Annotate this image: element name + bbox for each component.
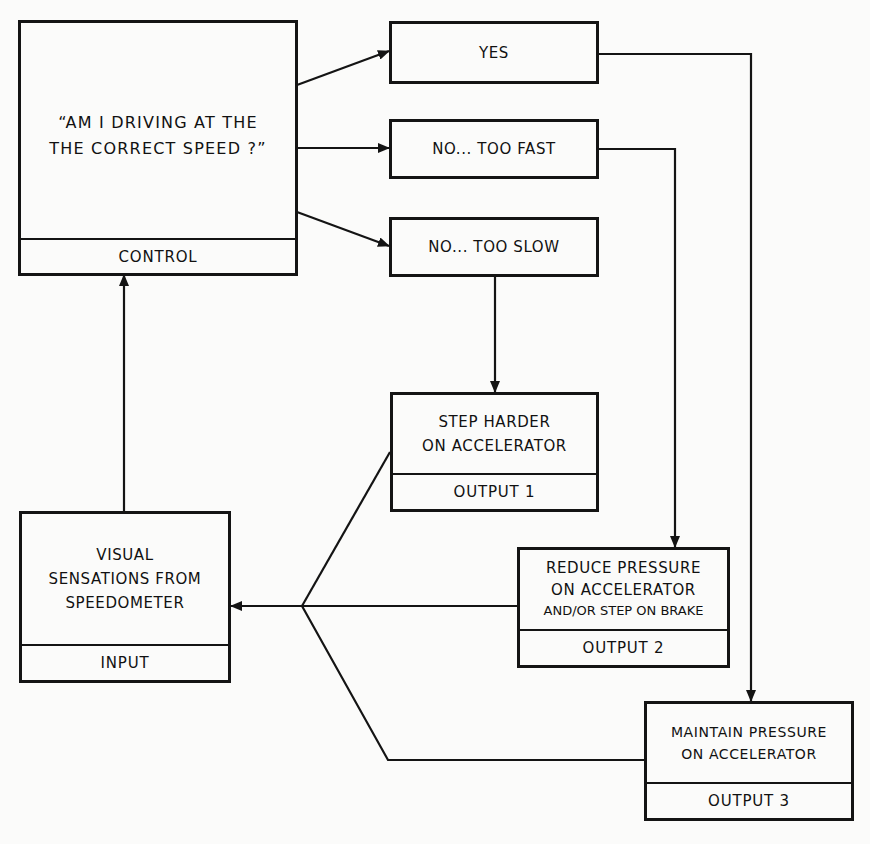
control-question-line-2: THE CORRECT SPEED ?”	[49, 136, 266, 162]
arrow-control-to-yes	[297, 51, 389, 85]
arrow-too-fast-to-output2	[598, 149, 675, 547]
yes-label: YES	[392, 24, 596, 81]
output3-box: MAINTAIN PRESSURE ON ACCELERATOR OUTPUT …	[644, 701, 854, 821]
output2-line-3: AND/OR STEP ON BRAKE	[544, 602, 704, 621]
output1-action: STEP HARDER ON ACCELERATOR	[393, 395, 596, 473]
output2-label: OUTPUT 2	[520, 629, 727, 665]
input-line-1: VISUAL	[49, 543, 202, 567]
output1-line-1: STEP HARDER	[422, 410, 567, 434]
too-fast-label: NO... TOO FAST	[392, 122, 596, 176]
output1-box: STEP HARDER ON ACCELERATOR OUTPUT 1	[390, 392, 599, 512]
line-output1-to-junction	[302, 452, 390, 606]
too-slow-label: NO... TOO SLOW	[392, 220, 596, 274]
arrow-control-to-too-slow	[297, 212, 389, 246]
control-label: CONTROL	[21, 238, 295, 273]
output3-action: MAINTAIN PRESSURE ON ACCELERATOR	[647, 704, 851, 782]
control-question: “AM I DRIVING AT THE THE CORRECT SPEED ?…	[21, 23, 295, 238]
output3-label: OUTPUT 3	[647, 782, 851, 818]
input-source: VISUAL SENSATIONS FROM SPEEDOMETER	[22, 514, 228, 644]
control-box: “AM I DRIVING AT THE THE CORRECT SPEED ?…	[18, 20, 298, 276]
input-box: VISUAL SENSATIONS FROM SPEEDOMETER INPUT	[19, 511, 231, 683]
output2-box: REDUCE PRESSURE ON ACCELERATOR AND/OR ST…	[517, 547, 730, 668]
yes-box: YES	[389, 21, 599, 84]
output1-line-2: ON ACCELERATOR	[422, 434, 567, 458]
output3-line-2: ON ACCELERATOR	[671, 743, 827, 765]
output2-action: REDUCE PRESSURE ON ACCELERATOR AND/OR ST…	[520, 550, 727, 629]
output2-line-2: ON ACCELERATOR	[544, 580, 704, 602]
output2-line-1: REDUCE PRESSURE	[544, 558, 704, 580]
too-fast-box: NO... TOO FAST	[389, 119, 599, 179]
output3-line-1: MAINTAIN PRESSURE	[671, 721, 827, 743]
output1-label: OUTPUT 1	[393, 473, 596, 509]
flowchart-canvas: “AM I DRIVING AT THE THE CORRECT SPEED ?…	[0, 0, 870, 844]
input-line-2: SENSATIONS FROM	[49, 567, 202, 591]
input-line-3: SPEEDOMETER	[49, 591, 202, 615]
input-label: INPUT	[22, 644, 228, 680]
too-slow-box: NO... TOO SLOW	[389, 217, 599, 277]
control-question-line-1: “AM I DRIVING AT THE	[49, 110, 266, 136]
